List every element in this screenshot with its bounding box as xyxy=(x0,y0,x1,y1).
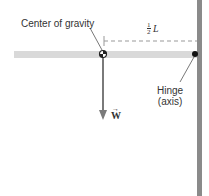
wall xyxy=(197,0,202,196)
hinge-leader xyxy=(180,57,194,82)
hinge-point xyxy=(192,51,198,57)
half-length-label: 1 2 L xyxy=(147,22,159,35)
weight-label: → W xyxy=(111,110,121,121)
center-of-gravity-label: Center of gravity xyxy=(21,18,94,29)
fraction: 1 2 xyxy=(147,22,151,35)
vector-arrow-icon: → xyxy=(112,105,119,113)
weight-arrow-head xyxy=(99,110,107,120)
cog-leader xyxy=(90,28,102,50)
hinge-label: Hinge (axis) xyxy=(157,85,183,107)
